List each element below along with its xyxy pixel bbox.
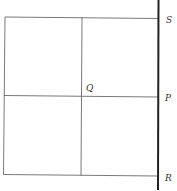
middle-vertical-line	[81, 18, 82, 176]
middle-horizontal-line	[4, 96, 158, 98]
grid-lines	[4, 17, 159, 176]
label-p: P	[164, 93, 172, 103]
grid-diagram: S Q P R	[0, 0, 177, 191]
label-s: S	[166, 15, 172, 25]
thick-vertical-wall	[158, 0, 159, 190]
label-r: R	[164, 173, 172, 183]
label-q: Q	[86, 83, 94, 93]
top-edge	[5, 17, 158, 19]
